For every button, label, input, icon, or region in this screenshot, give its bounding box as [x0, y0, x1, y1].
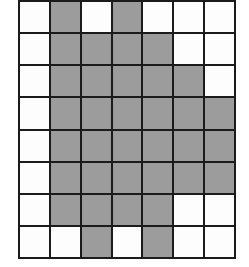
grid-cell-shaded[interactable] [112, 97, 143, 129]
grid-cell-shaded[interactable] [112, 194, 143, 226]
grid-cell-empty[interactable] [19, 1, 50, 33]
grid-table [18, 0, 236, 259]
grid-row [19, 33, 235, 65]
grid-cell-shaded[interactable] [81, 130, 112, 162]
grid-cell-empty[interactable] [19, 65, 50, 97]
grid-cell-empty[interactable] [81, 1, 112, 33]
grid-cell-empty[interactable] [204, 226, 235, 258]
grid-cell-shaded[interactable] [173, 162, 204, 194]
grid-row [19, 97, 235, 129]
grid-body [19, 1, 235, 258]
grid-cell-empty[interactable] [204, 65, 235, 97]
grid-cell-empty[interactable] [173, 194, 204, 226]
grid-cell-shaded[interactable] [142, 33, 173, 65]
grid-row [19, 130, 235, 162]
grid-cell-shaded[interactable] [142, 226, 173, 258]
grid-cell-shaded[interactable] [50, 33, 81, 65]
grid-cell-empty[interactable] [19, 194, 50, 226]
grid-cell-shaded[interactable] [81, 162, 112, 194]
grid-cell-shaded[interactable] [50, 1, 81, 33]
grid-cell-empty[interactable] [19, 130, 50, 162]
grid-cell-shaded[interactable] [112, 65, 143, 97]
grid-row [19, 162, 235, 194]
grid-cell-empty[interactable] [142, 1, 173, 33]
grid-row [19, 1, 235, 33]
grid-cell-shaded[interactable] [81, 194, 112, 226]
grid-cell-shaded[interactable] [142, 97, 173, 129]
grid-cell-empty[interactable] [173, 33, 204, 65]
grid-cell-shaded[interactable] [204, 162, 235, 194]
grid-cell-shaded[interactable] [142, 65, 173, 97]
grid-row [19, 194, 235, 226]
grid-cell-empty[interactable] [173, 226, 204, 258]
grid-cell-shaded[interactable] [81, 97, 112, 129]
grid-cell-empty[interactable] [19, 97, 50, 129]
grid-cell-shaded[interactable] [142, 162, 173, 194]
grid-cell-shaded[interactable] [204, 130, 235, 162]
grid-row [19, 65, 235, 97]
grid-cell-shaded[interactable] [50, 194, 81, 226]
grid-cell-shaded[interactable] [112, 1, 143, 33]
grid-cell-empty[interactable] [19, 33, 50, 65]
shaded-grid-figure [18, 0, 236, 259]
grid-cell-shaded[interactable] [112, 33, 143, 65]
grid-cell-shaded[interactable] [204, 97, 235, 129]
grid-cell-shaded[interactable] [112, 162, 143, 194]
grid-cell-empty[interactable] [19, 162, 50, 194]
grid-cell-shaded[interactable] [173, 130, 204, 162]
grid-cell-empty[interactable] [204, 1, 235, 33]
grid-cell-shaded[interactable] [50, 65, 81, 97]
grid-cell-empty[interactable] [204, 194, 235, 226]
grid-cell-shaded[interactable] [142, 194, 173, 226]
grid-cell-shaded[interactable] [112, 130, 143, 162]
grid-cell-shaded[interactable] [81, 226, 112, 258]
grid-cell-empty[interactable] [19, 226, 50, 258]
grid-cell-empty[interactable] [50, 226, 81, 258]
grid-cell-shaded[interactable] [81, 65, 112, 97]
grid-cell-shaded[interactable] [50, 130, 81, 162]
grid-cell-shaded[interactable] [173, 97, 204, 129]
grid-row [19, 226, 235, 258]
grid-cell-shaded[interactable] [142, 130, 173, 162]
grid-cell-empty[interactable] [173, 1, 204, 33]
grid-cell-shaded[interactable] [50, 97, 81, 129]
grid-cell-empty[interactable] [204, 33, 235, 65]
grid-cell-empty[interactable] [112, 226, 143, 258]
grid-cell-shaded[interactable] [81, 33, 112, 65]
grid-cell-shaded[interactable] [173, 65, 204, 97]
grid-cell-shaded[interactable] [50, 162, 81, 194]
